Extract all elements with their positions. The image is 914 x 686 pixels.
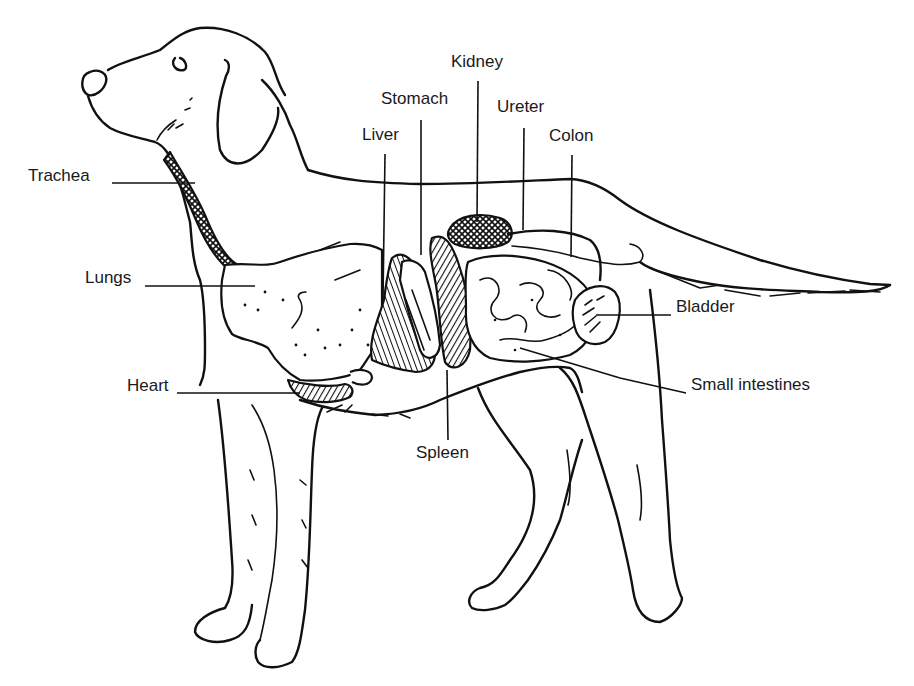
label-small-intestines: Small intestines	[691, 376, 810, 393]
dog-illustration	[0, 0, 914, 686]
label-colon: Colon	[549, 127, 593, 144]
front-legs	[195, 400, 322, 667]
label-liver: Liver	[362, 126, 399, 143]
leader-small_intestines	[520, 348, 686, 393]
leader-colon	[571, 155, 572, 257]
label-trachea: Trachea	[28, 167, 90, 184]
label-heart: Heart	[127, 377, 169, 394]
label-kidney: Kidney	[451, 53, 503, 70]
leader-liver	[383, 154, 385, 300]
label-ureter: Ureter	[497, 98, 544, 115]
trachea-shape	[164, 152, 238, 272]
head	[82, 28, 308, 170]
leader-spleen	[447, 370, 448, 440]
label-spleen: Spleen	[416, 444, 469, 461]
lungs-shape	[221, 242, 382, 381]
dog-anatomy-diagram: Trachea Lungs Heart Liver Stomach Kidney…	[0, 0, 914, 686]
label-bladder: Bladder	[676, 298, 735, 315]
label-lungs: Lungs	[85, 269, 131, 286]
label-stomach: Stomach	[381, 90, 448, 107]
leader-kidney	[477, 81, 478, 222]
kidney-shape	[448, 215, 512, 248]
leader-ureter	[523, 128, 524, 230]
